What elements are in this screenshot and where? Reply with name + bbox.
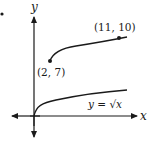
transformed-curve [50,37,127,61]
start-point [48,59,52,63]
equation-lhs: y = [87,98,109,110]
end-point [117,36,121,40]
equation-rhs: √x [109,98,122,110]
equation-label: y = √x [87,98,122,110]
end-point-label: (11, 10) [94,21,136,33]
y-axis-label: y [30,0,38,14]
bullet-icon [0,12,3,15]
x-axis-label: x [140,109,147,123]
graph: y x (2, 7) (11, 10) y = √x [0,0,147,144]
start-point-label: (2, 7) [37,66,65,78]
